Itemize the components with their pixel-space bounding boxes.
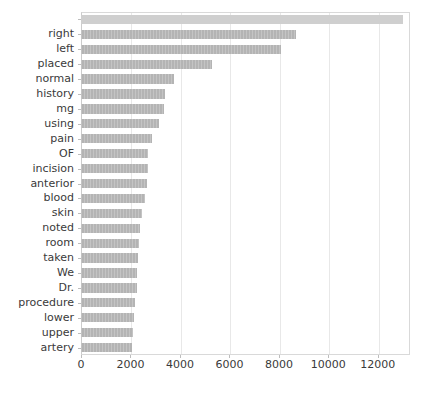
- category-label: We: [57, 267, 74, 278]
- category-label: blood: [44, 192, 74, 203]
- bar-row: [81, 194, 410, 203]
- bar-row: [81, 119, 410, 128]
- category-tick: [78, 49, 81, 50]
- value-tick: [180, 355, 181, 358]
- category-label: lower: [44, 312, 74, 323]
- category-tick: [78, 228, 81, 229]
- bar-using: [81, 119, 159, 128]
- bar-taken: [81, 253, 138, 262]
- bar-history: [81, 89, 165, 98]
- category-label: OF: [59, 148, 74, 159]
- bar-incision: [81, 164, 148, 173]
- category-tick: [78, 243, 81, 244]
- bar-room: [81, 239, 139, 248]
- category-axis-labels: rightleftplacednormalhistorymgusingpainO…: [0, 12, 78, 355]
- value-tick: [130, 355, 131, 358]
- category-label: skin: [52, 207, 74, 218]
- category-label: Dr.: [59, 282, 74, 293]
- category-tick: [78, 169, 81, 170]
- category-tick: [78, 124, 81, 125]
- category-tick: [78, 139, 81, 140]
- bar-row: [81, 298, 410, 307]
- bar-anterior: [81, 179, 147, 188]
- bar-row: [81, 179, 410, 188]
- bar-placed: [81, 60, 212, 69]
- value-tick: [229, 355, 230, 358]
- category-tick: [78, 333, 81, 334]
- category-label: right: [48, 28, 74, 39]
- category-label: pain: [50, 133, 74, 144]
- category-label: anterior: [30, 178, 74, 189]
- category-label: placed: [37, 58, 74, 69]
- bar-chart: rightleftplacednormalhistorymgusingpainO…: [0, 0, 443, 402]
- value-tick-label: 6000: [215, 358, 243, 371]
- value-tick: [81, 355, 82, 358]
- value-axis-labels: 020004000600080001000012000: [0, 358, 443, 378]
- bar-row: [81, 253, 410, 262]
- value-tick-label: 2000: [116, 358, 144, 371]
- category-label: history: [36, 88, 74, 99]
- bar-row: [81, 209, 410, 218]
- category-tick: [78, 64, 81, 65]
- category-tick: [78, 184, 81, 185]
- category-label: upper: [42, 327, 74, 338]
- value-tick: [328, 355, 329, 358]
- category-label: procedure: [18, 297, 74, 308]
- bar-row: [81, 343, 410, 352]
- bar-blood: [81, 194, 145, 203]
- category-label: normal: [35, 73, 74, 84]
- category-tick: [78, 109, 81, 110]
- bar-lower: [81, 313, 134, 322]
- category-tick: [78, 318, 81, 319]
- bar-row: [81, 164, 410, 173]
- value-tick-label: 10000: [311, 358, 346, 371]
- category-tick: [78, 79, 81, 80]
- category-label: artery: [41, 342, 74, 353]
- category-label: incision: [32, 163, 74, 174]
- bar-row: [81, 313, 410, 322]
- bar-row: [81, 89, 410, 98]
- value-tick: [378, 355, 379, 358]
- bar-normal: [81, 74, 174, 83]
- value-tick-label: 12000: [360, 358, 395, 371]
- bar-skin: [81, 209, 142, 218]
- bar-row: [81, 104, 410, 113]
- category-label: mg: [56, 103, 74, 114]
- bar-upper: [81, 328, 133, 337]
- bar-dr-: [81, 283, 137, 292]
- bar-row: [81, 30, 410, 39]
- bar-unlabeled: [81, 15, 403, 24]
- bar-procedure: [81, 298, 135, 307]
- category-label: room: [46, 237, 74, 248]
- value-tick-label: 8000: [265, 358, 293, 371]
- bar-row: [81, 283, 410, 292]
- bar-of: [81, 149, 148, 158]
- bar-row: [81, 239, 410, 248]
- bar-row: [81, 60, 410, 69]
- category-tick: [78, 273, 81, 274]
- bar-row: [81, 134, 410, 143]
- bar-we: [81, 268, 137, 277]
- category-label: taken: [43, 252, 74, 263]
- bar-artery: [81, 343, 132, 352]
- category-tick: [78, 213, 81, 214]
- bar-pain: [81, 134, 152, 143]
- bar-noted: [81, 224, 140, 233]
- category-tick: [78, 198, 81, 199]
- value-tick: [279, 355, 280, 358]
- bar-row: [81, 15, 410, 24]
- category-tick: [78, 19, 81, 20]
- value-tick-label: 0: [78, 358, 85, 371]
- category-label: noted: [42, 222, 74, 233]
- category-tick: [78, 94, 81, 95]
- bar-right: [81, 30, 296, 39]
- category-tick: [78, 288, 81, 289]
- bar-row: [81, 149, 410, 158]
- bar-row: [81, 45, 410, 54]
- category-tick: [78, 303, 81, 304]
- category-tick: [78, 348, 81, 349]
- category-tick: [78, 34, 81, 35]
- value-tick-label: 4000: [166, 358, 194, 371]
- bar-row: [81, 74, 410, 83]
- category-tick: [78, 258, 81, 259]
